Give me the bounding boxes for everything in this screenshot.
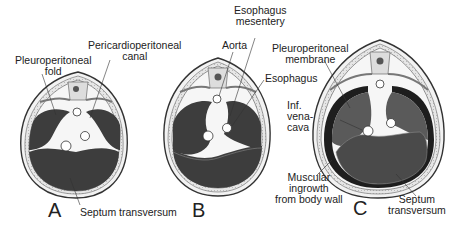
label-pleuroperitoneal-membrane: Pleuroperitoneal membrane	[272, 43, 348, 65]
label-aorta: Aorta	[222, 40, 247, 51]
panel-a-section	[21, 60, 128, 205]
label-inf-vena-cava: Inf. vena- cava	[287, 100, 313, 133]
diaphragm-development-figure: Pleuroperitoneal fold Pericardioperitone…	[0, 0, 470, 231]
label-line: from body wall	[275, 194, 343, 205]
label-line: mesentery	[234, 16, 287, 27]
panel-letter-a: A	[48, 200, 61, 220]
label-line: canal	[88, 51, 181, 62]
label-pericardioperitoneal-canal: Pericardioperitoneal canal	[88, 40, 181, 62]
label-septum-transversum-a: Septum transversum	[80, 207, 177, 218]
label-line: transversum	[388, 205, 446, 216]
label-line: fold	[15, 66, 91, 77]
label-esophagus: Esophagus	[265, 73, 318, 84]
panel-letter-b: B	[192, 200, 205, 220]
label-pleuroperitoneal-fold: Pleuroperitoneal fold	[15, 55, 91, 77]
label-muscular-ingrowth: Muscular ingrowth from body wall	[275, 172, 343, 205]
panel-letter-c: C	[353, 198, 367, 218]
label-line: cava	[287, 122, 313, 133]
label-line: membrane	[272, 54, 348, 65]
label-esophagus-mesentery: Esophagus mesentery	[234, 5, 287, 27]
label-septum-transversum-c: Septum transversum	[388, 194, 446, 216]
